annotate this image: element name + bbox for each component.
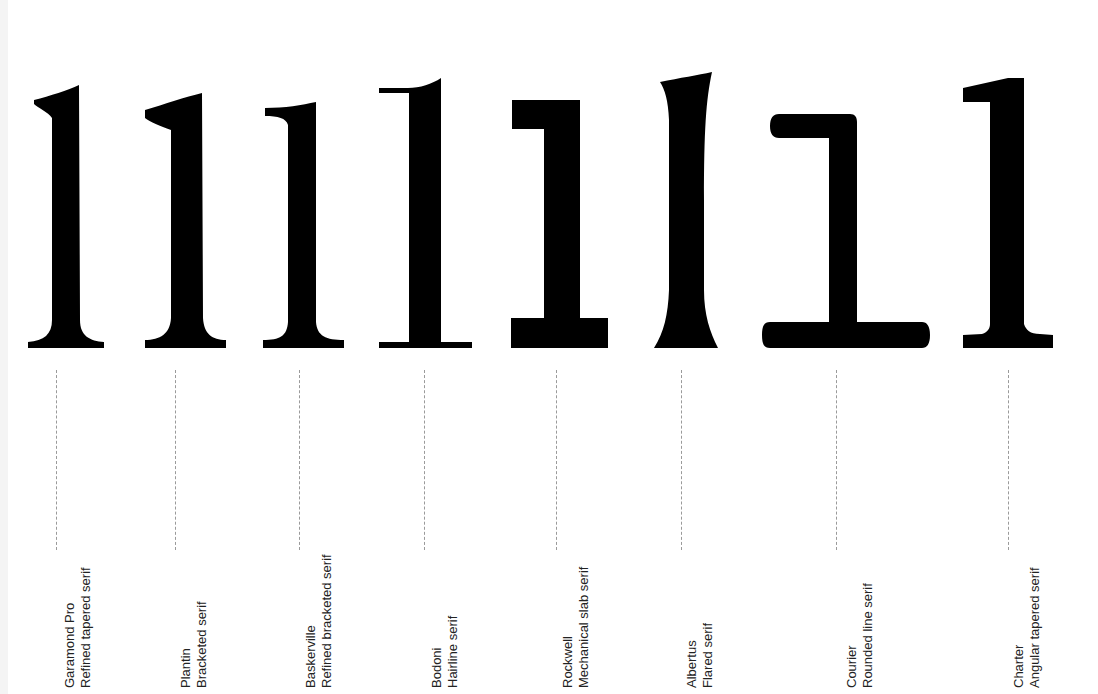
typeface-name: Baskerville xyxy=(303,554,319,688)
leader-line xyxy=(175,370,176,550)
charter-one-glyph xyxy=(963,78,1053,348)
courier-one-glyph xyxy=(762,114,930,348)
specimen-label-garamond: Garamond Pro Refined tapered serif xyxy=(62,567,94,688)
typeface-name: Albertus xyxy=(684,623,700,688)
specimen-label-charter: Charter Angular tapered serif xyxy=(1011,567,1043,688)
serif-style: Refined tapered serif xyxy=(78,567,94,688)
typeface-name: Rockwell xyxy=(560,567,576,688)
rockwell-one-glyph xyxy=(511,100,608,348)
serif-style: Mechanical slab serif xyxy=(576,567,592,688)
serif-style: Angular tapered serif xyxy=(1027,567,1043,688)
albertus-one-glyph xyxy=(654,72,718,348)
baskerville-one-glyph xyxy=(263,102,344,348)
numeral-specimens xyxy=(0,0,1098,360)
plantin-one-glyph xyxy=(145,93,226,348)
serif-style: Rounded line serif xyxy=(860,583,876,688)
leader-line xyxy=(681,370,682,550)
typeface-name: Garamond Pro xyxy=(62,567,78,688)
leader-line xyxy=(1008,370,1009,550)
bodoni-one-glyph xyxy=(379,78,472,348)
typeface-name: Plantin xyxy=(178,601,194,688)
serif-style: Bracketed serif xyxy=(194,601,210,688)
typeface-name: Charter xyxy=(1011,567,1027,688)
serif-style: Flared serif xyxy=(700,623,716,688)
leader-line xyxy=(56,370,57,550)
leader-line xyxy=(556,370,557,550)
garamond-one-glyph xyxy=(28,85,104,348)
specimen-label-courier: Courier Rounded line serif xyxy=(844,583,876,688)
serif-style: Refined bracketed serif xyxy=(319,554,335,688)
leader-line xyxy=(424,370,425,550)
specimen-label-albertus: Albertus Flared serif xyxy=(684,623,716,688)
specimen-label-bodoni: Bodoni Hairline serif xyxy=(429,616,461,688)
serif-style: Hairline serif xyxy=(445,616,461,688)
specimen-label-baskerville: Baskerville Refined bracketed serif xyxy=(303,554,335,688)
specimen-label-rockwell: Rockwell Mechanical slab serif xyxy=(560,567,592,688)
leader-line xyxy=(299,370,300,550)
leader-line xyxy=(836,370,837,550)
typeface-name: Bodoni xyxy=(429,616,445,688)
typeface-name: Courier xyxy=(844,583,860,688)
specimen-label-plantin: Plantin Bracketed serif xyxy=(178,601,210,688)
